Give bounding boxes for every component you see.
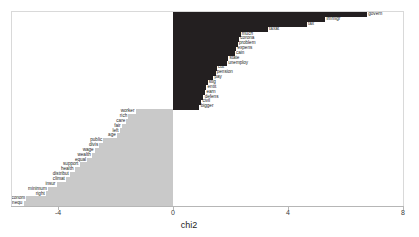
bar-label-bigger: bigger xyxy=(201,104,214,109)
x-axis-label: chi2 xyxy=(181,220,198,230)
plot-area: governimmigrtaxtaxatmuchcoronaproblemexp… xyxy=(12,12,403,206)
bar-label-tax: tax xyxy=(308,22,314,27)
x-tick-label--4: -4 xyxy=(55,209,61,216)
x-tick-label-8: 8 xyxy=(401,209,405,216)
bar-bigger xyxy=(173,104,199,109)
x-tick-label-4: 4 xyxy=(286,209,290,216)
bar-label-govern: govern xyxy=(368,12,382,17)
x-tick-label-0: 0 xyxy=(171,209,175,216)
chart-root: governimmigrtaxtaxatmuchcoronaproblemexp… xyxy=(0,0,419,237)
x-axis-line xyxy=(11,206,404,207)
bar-label-immigr: immigr xyxy=(327,17,341,22)
bar-label-unemploy: unemploy xyxy=(228,61,248,66)
bar-label-taxat: taxat xyxy=(269,27,279,32)
